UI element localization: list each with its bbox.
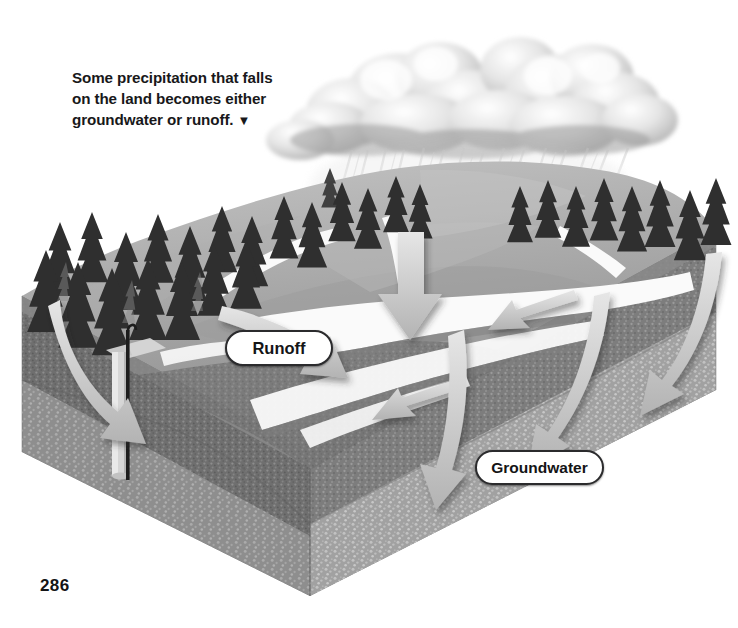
figure-caption: Some precipitation that falls on the lan… (72, 68, 322, 130)
caption-line-1: Some precipitation that falls (72, 69, 272, 86)
label-runoff: Runoff (225, 330, 333, 366)
caption-pointer-icon: ▼ (238, 113, 251, 128)
label-groundwater-text: Groundwater (491, 459, 587, 477)
page-number: 286 (40, 576, 70, 596)
label-runoff-text: Runoff (252, 339, 305, 358)
caption-line-3: groundwater or runoff. (72, 111, 233, 128)
label-groundwater: Groundwater (475, 450, 604, 485)
diagram-page: Some precipitation that falls on the lan… (0, 0, 738, 628)
caption-line-2: on the land becomes either (72, 90, 266, 107)
